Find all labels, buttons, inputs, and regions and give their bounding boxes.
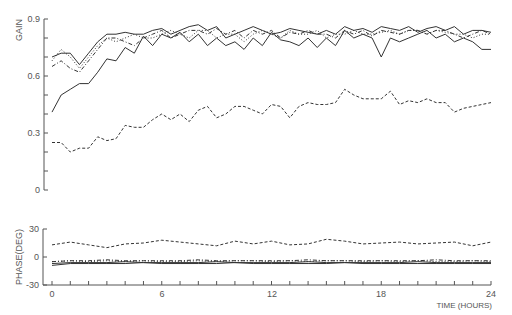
gain-tick-0.3: 0.3: [27, 128, 40, 138]
time-x-ticks: [52, 281, 491, 285]
gain-tick-0.9: 0.9: [27, 14, 40, 24]
x-tick-24: 24: [486, 289, 496, 299]
gain-phase-chart: GAIN 0.9 0.6 0.3 0 PHASE(DEG) 30 0 -30 0…: [0, 0, 512, 315]
gain-tick-0.6: 0.6: [27, 71, 40, 81]
phase-tick-neg30: -30: [26, 280, 39, 290]
x-tick-18: 18: [376, 289, 386, 299]
gain-axis-label: GAIN: [14, 19, 24, 41]
series-dashed: [52, 239, 491, 247]
phase-axis-label: PHASE(DEG): [14, 229, 24, 285]
x-tick-12: 12: [267, 289, 277, 299]
gain-series-lines: [52, 25, 491, 152]
x-tick-0: 0: [49, 289, 54, 299]
x-tick-6: 6: [159, 289, 164, 299]
gain-tick-0: 0: [35, 185, 40, 195]
gain-y-ticks: [44, 19, 48, 190]
phase-tick-0: 0: [34, 252, 39, 262]
series-dashed: [52, 89, 491, 152]
series-dotted: [52, 30, 491, 68]
phase-tick-30: 30: [29, 224, 39, 234]
phase-series-lines: [52, 239, 491, 265]
x-axis-label: TIME (HOURS): [436, 301, 492, 310]
series-dash-dot: [52, 29, 491, 73]
phase-panel: PHASE(DEG) 30 0 -30 0 6 12 18 24 TIME (H…: [14, 224, 496, 310]
phase-y-ticks: [43, 229, 47, 285]
gain-panel: GAIN 0.9 0.6 0.3 0: [14, 14, 491, 195]
